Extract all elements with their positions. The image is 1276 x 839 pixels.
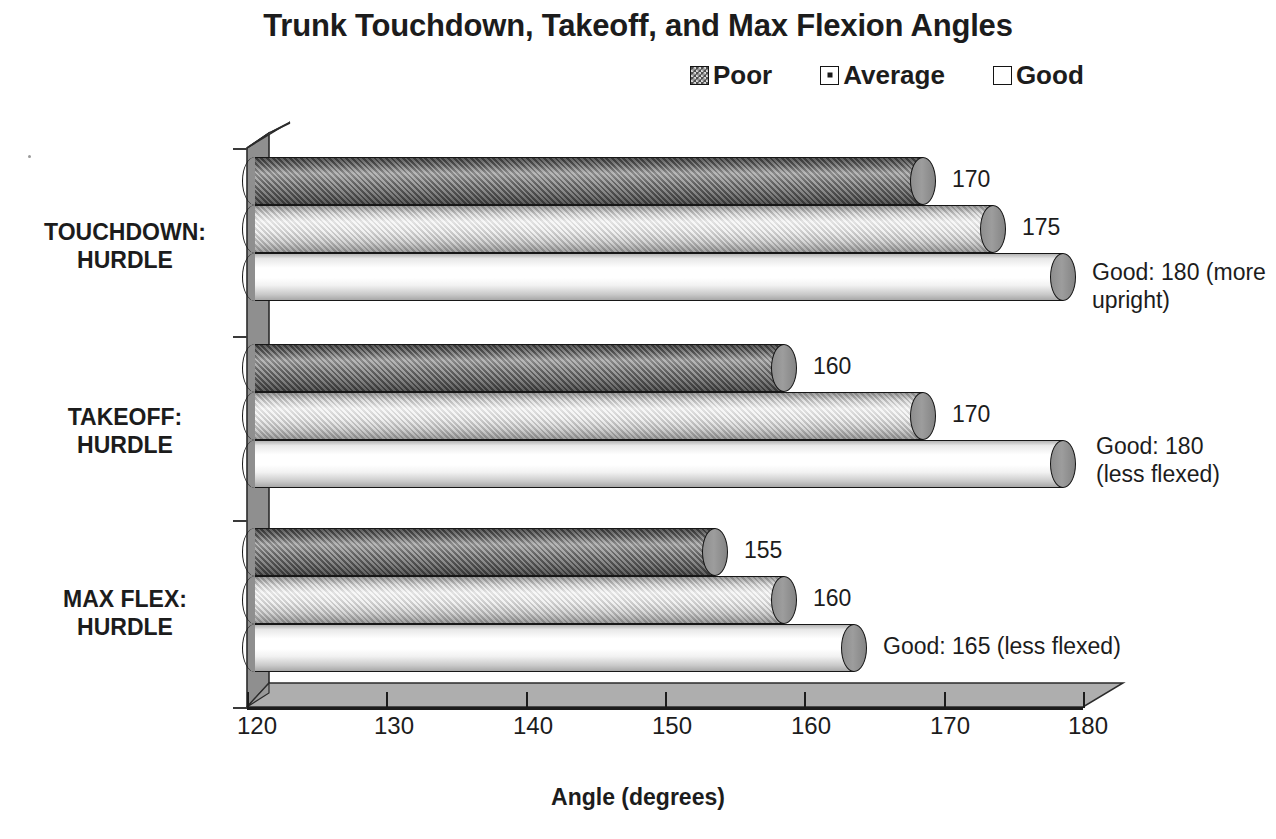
x-axis-title: Angle (degrees)	[0, 784, 1276, 811]
x-axis-label-180: 180	[1068, 712, 1108, 740]
bar-end-cap	[910, 157, 936, 205]
bar-body	[255, 253, 1063, 301]
y-axis-tick-2	[233, 520, 247, 522]
bar-body	[255, 528, 715, 576]
x-axis-tick-140	[526, 692, 528, 708]
x-axis-label-150: 150	[652, 712, 692, 740]
bar-value-touchdown-good: Good: 180 (more upright)	[1092, 259, 1266, 314]
y-axis-tick-1	[233, 336, 247, 338]
category-label-touchdown-line1: TOUCHDOWN:	[10, 218, 240, 246]
bar-end-cap	[1050, 440, 1076, 488]
x-axis-label-120: 120	[237, 712, 277, 740]
bar-takeoff-average[interactable]	[255, 392, 923, 440]
bar-value-maxflex-average: 160	[813, 585, 851, 613]
bar-body	[255, 440, 1063, 488]
bar-takeoff-poor[interactable]	[255, 344, 784, 392]
category-label-takeoff-line1: TAKEOFF:	[10, 403, 240, 431]
x-axis-label-170: 170	[930, 712, 970, 740]
bar-touchdown-average[interactable]	[255, 205, 993, 253]
bar-value-takeoff-poor: 160	[813, 353, 851, 381]
bar-touchdown-good[interactable]	[255, 253, 1063, 301]
x-axis-label-140: 140	[513, 712, 553, 740]
bar-end-cap	[1050, 253, 1076, 301]
bar-value-touchdown-average: 175	[1022, 214, 1060, 242]
bar-maxflex-average[interactable]	[255, 576, 784, 624]
bar-body	[255, 344, 784, 392]
category-label-maxflex-line1: MAX FLEX:	[10, 585, 240, 613]
x-axis-label-130: 130	[374, 712, 414, 740]
bar-end-cap	[771, 344, 797, 392]
category-label-maxflex: MAX FLEX: HURDLE	[10, 585, 240, 641]
x-axis-tick-120	[247, 692, 249, 708]
x-axis-tick-130	[386, 692, 388, 708]
bar-touchdown-poor[interactable]	[255, 157, 923, 205]
category-label-touchdown-line2: HURDLE	[10, 246, 240, 274]
bar-maxflex-good[interactable]	[255, 624, 854, 672]
bar-body	[255, 576, 784, 624]
x-axis-tick-180	[1083, 692, 1085, 708]
bar-end-cap	[771, 576, 797, 624]
bar-end-cap	[841, 624, 867, 672]
bar-body	[255, 205, 993, 253]
bar-takeoff-good[interactable]	[255, 440, 1063, 488]
bar-value-takeoff-average: 170	[952, 401, 990, 429]
bar-body	[255, 392, 923, 440]
bar-value-maxflex-good: Good: 165 (less flexed)	[883, 633, 1121, 661]
bar-value-touchdown-poor: 170	[952, 166, 990, 194]
category-label-takeoff: TAKEOFF: HURDLE	[10, 403, 240, 459]
bar-end-cap	[910, 392, 936, 440]
bar-end-cap	[702, 528, 728, 576]
bar-value-maxflex-poor: 155	[744, 537, 782, 565]
category-label-maxflex-line2: HURDLE	[10, 613, 240, 641]
bar-maxflex-poor[interactable]	[255, 528, 715, 576]
bar-value-takeoff-good: Good: 180 (less flexed)	[1096, 433, 1220, 488]
x-axis-tick-160	[804, 692, 806, 708]
bar-end-cap	[980, 205, 1006, 253]
bar-body	[255, 624, 854, 672]
category-label-touchdown: TOUCHDOWN: HURDLE	[10, 218, 240, 274]
x-axis-tick-170	[944, 692, 946, 708]
x-axis-label-160: 160	[791, 712, 831, 740]
chart-container: Trunk Touchdown, Takeoff, and Max Flexio…	[0, 0, 1276, 839]
x-axis-tick-150	[665, 692, 667, 708]
y-axis-tick-top	[233, 148, 247, 150]
y-axis-tick-bottom	[233, 707, 247, 709]
bar-body	[255, 157, 923, 205]
category-label-takeoff-line2: HURDLE	[10, 431, 240, 459]
